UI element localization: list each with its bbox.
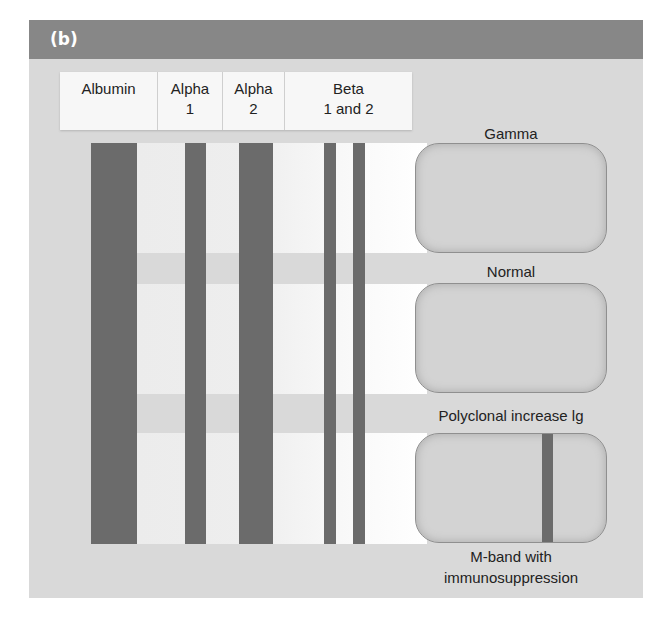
mband-label-line1: M-band with [395,547,627,567]
label-beta: Beta 1 and 2 [285,72,412,130]
band-alpha-2 [239,143,273,544]
gamma-box-mband [415,433,607,543]
normal-label: Normal [415,262,607,282]
band-alpha-1 [185,143,206,544]
band-beta-2 [353,143,365,544]
fraction-label-bar: Albumin Alpha 1 Alpha 2 Beta 1 and 2 [60,72,412,130]
band-albumin [91,143,137,544]
electrophoresis-panel: (b) Albumin Alpha 1 Alpha 2 Beta 1 and 2… [29,20,643,598]
label-alpha-1: Alpha 1 [158,72,223,130]
m-band [542,434,553,543]
panel-tag: (b) [50,29,78,49]
gamma-header-label: Gamma [415,124,607,144]
electrophoresis-lane [137,143,427,544]
mband-label-line2: immunosuppression [395,568,627,588]
gamma-box-normal [415,143,607,253]
panel-header: (b) [29,20,643,59]
polyclonal-label: Polyclonal increase lg [395,406,627,426]
band-beta-1 [324,143,336,544]
label-alpha-2: Alpha 2 [223,72,285,130]
gamma-box-polyclonal [415,283,607,393]
label-albumin: Albumin [60,72,158,130]
